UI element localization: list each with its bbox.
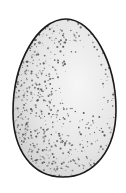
- egg-illustration: [0, 0, 126, 193]
